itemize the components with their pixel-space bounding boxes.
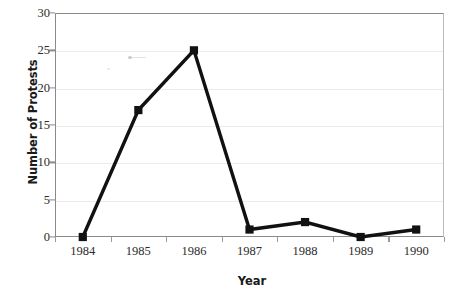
- x-axis-tick-mark: [277, 237, 278, 242]
- series-marker-group: [79, 46, 421, 241]
- y-axis-tick-label: 25: [24, 43, 50, 58]
- x-axis-tick-mark: [111, 237, 112, 242]
- x-axis-title: Year: [0, 274, 454, 288]
- scan-artifact-streak-icon: [132, 57, 146, 58]
- y-axis-tick-label: 20: [24, 80, 50, 95]
- data-point-marker: [357, 233, 365, 241]
- x-axis-tick-mark: [444, 237, 445, 242]
- x-axis-tick-label: 1984: [55, 244, 111, 259]
- scan-artifact-speck-icon: [107, 68, 110, 70]
- x-axis-tick-label: 1990: [388, 244, 444, 259]
- y-axis-tick-label: 10: [24, 155, 50, 170]
- x-axis-tick-mark: [55, 237, 56, 242]
- y-axis-tick-label: 15: [24, 118, 50, 133]
- data-point-marker: [134, 106, 142, 114]
- x-axis-tick-label: 1987: [222, 244, 278, 259]
- x-axis-tick-label: 1986: [166, 244, 222, 259]
- x-axis-tick-label: 1989: [333, 244, 389, 259]
- x-axis-tick-mark: [222, 237, 223, 242]
- data-point-marker: [301, 218, 309, 226]
- data-point-marker: [245, 225, 253, 233]
- data-series-layer: [55, 13, 444, 237]
- x-axis-tick-mark: [333, 237, 334, 242]
- data-point-marker: [412, 225, 420, 233]
- x-axis-tick-mark: [166, 237, 167, 242]
- y-axis-tick-label: 30: [24, 6, 50, 21]
- x-axis-tick-mark: [388, 237, 389, 242]
- data-point-marker: [79, 233, 87, 241]
- series-line-number-of-protests: [83, 50, 416, 237]
- chart-figure: Number of Protests Year 051015202530 198…: [0, 0, 454, 297]
- y-axis-tick-label: 0: [24, 230, 50, 245]
- data-point-marker: [190, 46, 198, 54]
- x-axis-tick-label: 1988: [277, 244, 333, 259]
- y-axis-tick-label: 5: [24, 192, 50, 207]
- x-axis-tick-label: 1985: [110, 244, 166, 259]
